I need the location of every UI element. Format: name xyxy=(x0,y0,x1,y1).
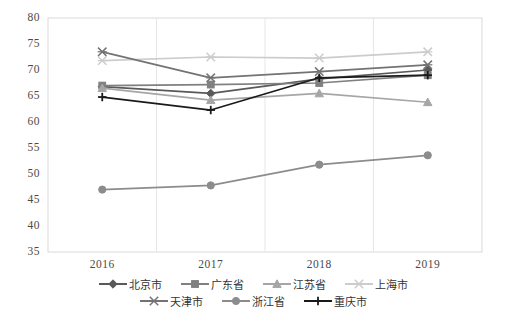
legend-item[interactable]: 江苏省 xyxy=(262,276,326,292)
legend-label: 上海市 xyxy=(375,276,408,292)
legend-marker-diamond-icon xyxy=(98,278,128,290)
legend-row-2: 天津市浙江省重庆市 xyxy=(130,293,376,309)
legend-item[interactable]: 重庆市 xyxy=(303,293,367,309)
legend-key xyxy=(262,278,292,290)
legend-key xyxy=(139,295,169,307)
legend-item[interactable]: 北京市 xyxy=(98,276,162,292)
legend-item[interactable]: 浙江省 xyxy=(221,293,285,309)
legend-marker-x-icon xyxy=(344,278,374,290)
legend-marker-square-icon xyxy=(180,278,210,290)
legend-item[interactable]: 天津市 xyxy=(139,293,203,309)
legend-label: 广东省 xyxy=(211,276,244,292)
legend-item[interactable]: 上海市 xyxy=(344,276,408,292)
legend-label: 江苏省 xyxy=(293,276,326,292)
legend-key xyxy=(303,295,333,307)
legend-label: 北京市 xyxy=(129,276,162,292)
legend-key xyxy=(344,278,374,290)
legend-marker-circle-icon xyxy=(221,295,251,307)
legend-key xyxy=(221,295,251,307)
line-chart: 80757065605550454035 2016201720182019 北京… xyxy=(0,0,506,330)
legend-marker-x-icon xyxy=(139,295,169,307)
legend-label: 天津市 xyxy=(170,293,203,309)
legend-row-1: 北京市广东省江苏省上海市 xyxy=(89,276,417,292)
legend-key xyxy=(180,278,210,290)
legend-item[interactable]: 广东省 xyxy=(180,276,244,292)
legend-label: 重庆市 xyxy=(334,293,367,309)
chart-legend: 北京市广东省江苏省上海市 天津市浙江省重庆市 xyxy=(0,276,506,309)
legend-label: 浙江省 xyxy=(252,293,285,309)
legend-marker-plus-icon xyxy=(303,295,333,307)
legend-marker-triangle-icon xyxy=(262,278,292,290)
legend-key xyxy=(98,278,128,290)
